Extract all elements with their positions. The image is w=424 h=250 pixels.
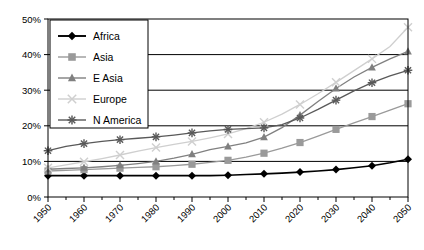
line-chart: 0%10%20%30%40%50% 1950196019701980199020… xyxy=(0,0,424,250)
data-point-marker-square xyxy=(332,126,339,133)
data-point-marker-square xyxy=(224,157,231,164)
data-point-marker-square xyxy=(68,53,76,61)
legend-item-label: E Asia xyxy=(93,72,123,84)
x-axis-tick-label: 1950 xyxy=(31,202,54,225)
x-axis-tick-label: 2050 xyxy=(391,202,414,225)
data-point-marker-square xyxy=(296,139,303,146)
x-axis-tick-label: 1970 xyxy=(103,202,126,225)
x-axis-ticks xyxy=(48,197,408,202)
y-axis-tick-label: 10% xyxy=(22,156,42,167)
y-axis-tick-label: 40% xyxy=(22,49,42,60)
legend-item-label: Africa xyxy=(93,30,120,42)
x-axis-tick-label: 2010 xyxy=(247,202,270,225)
x-axis-tick-label: 2000 xyxy=(211,202,234,225)
x-axis-tick-label: 2020 xyxy=(283,202,306,225)
legend-item-label: N America xyxy=(93,114,142,126)
y-axis-tick-label: 20% xyxy=(22,120,42,131)
x-axis-tick-label: 2030 xyxy=(319,202,342,225)
legend-item-label: Asia xyxy=(93,51,114,63)
data-point-marker-asterisk xyxy=(80,139,89,148)
x-axis-tick-label: 1980 xyxy=(139,202,162,225)
data-point-marker-asterisk xyxy=(67,115,76,124)
legend-item-label: Europe xyxy=(93,93,127,105)
data-point-marker-asterisk xyxy=(224,125,233,134)
y-axis-tick-label: 0% xyxy=(27,192,41,203)
y-axis-tick-labels: 0%10%20%30%40%50% xyxy=(22,14,42,203)
data-point-marker-asterisk xyxy=(152,133,161,142)
data-point-marker-square xyxy=(188,161,195,168)
data-point-marker-asterisk xyxy=(296,114,305,123)
data-point-marker-square xyxy=(260,150,267,157)
chart-container: 0%10%20%30%40%50% 1950196019701980199020… xyxy=(0,0,424,250)
data-point-marker-asterisk xyxy=(368,78,377,87)
x-axis-tick-label: 1990 xyxy=(175,202,198,225)
legend-item-europe[interactable]: Europe xyxy=(58,93,127,105)
x-axis-tick-label: 1960 xyxy=(67,202,90,225)
y-axis-tick-label: 50% xyxy=(22,14,42,25)
data-point-marker-asterisk xyxy=(260,124,269,133)
x-axis-tick-label: 2040 xyxy=(355,202,378,225)
x-axis-tick-labels: 1950196019701980199020002010202020302040… xyxy=(31,202,414,225)
y-axis-tick-label: 30% xyxy=(22,85,42,96)
data-point-marker-asterisk xyxy=(188,129,197,138)
data-point-marker-asterisk xyxy=(332,96,341,105)
data-point-marker-square xyxy=(368,113,375,120)
data-point-marker-asterisk xyxy=(116,135,125,144)
